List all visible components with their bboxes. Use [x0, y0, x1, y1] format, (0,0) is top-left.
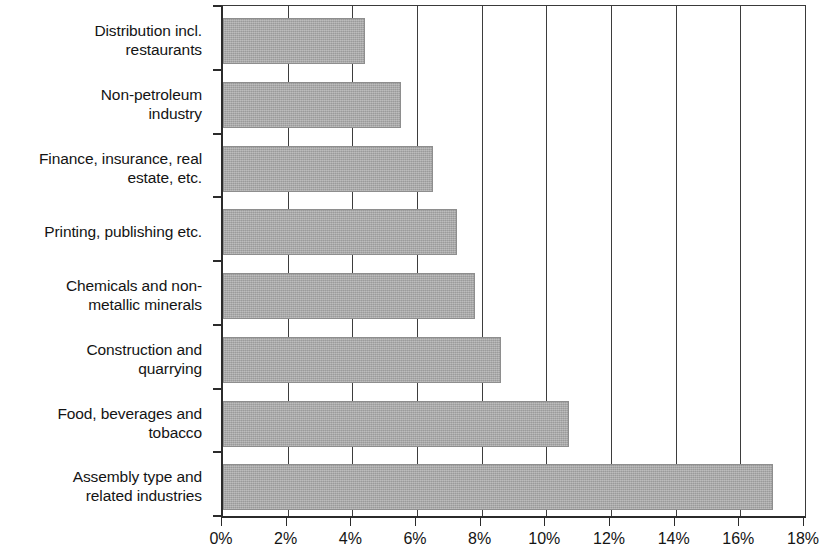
category-label: Non-petroleum industry: [0, 85, 202, 123]
bar: [223, 273, 475, 319]
bar: [223, 464, 773, 510]
value-tick: [544, 517, 545, 526]
category-label: Printing, publishing etc.: [0, 222, 202, 241]
value-tick: [674, 517, 675, 526]
value-tick: [286, 517, 287, 526]
bar: [223, 337, 501, 383]
value-tick-label: 14%: [658, 529, 690, 549]
plot-area: [221, 5, 806, 518]
bar: [223, 18, 365, 64]
value-tick: [415, 517, 416, 526]
category-label: Distribution incl. restaurants: [0, 21, 202, 59]
value-tick: [803, 517, 804, 526]
value-tick: [221, 517, 222, 526]
bar: [223, 82, 401, 128]
value-tick-label: 18%: [787, 529, 819, 549]
bar: [223, 401, 569, 447]
value-tick-label: 10%: [528, 529, 560, 549]
category-label: Construction and quarrying: [0, 340, 202, 378]
value-tick-label: 4%: [339, 529, 362, 549]
value-tick-label: 8%: [468, 529, 491, 549]
category-axis-labels: Distribution incl. restaurantsNon-petrol…: [0, 5, 212, 515]
category-label: Assembly type and related industries: [0, 467, 202, 505]
value-tick-label: 12%: [593, 529, 625, 549]
value-tick: [350, 517, 351, 526]
value-tick-label: 2%: [274, 529, 297, 549]
value-tick-label: 6%: [403, 529, 426, 549]
category-label: Finance, insurance, real estate, etc.: [0, 149, 202, 187]
bar-series: [223, 6, 805, 516]
bar: [223, 209, 457, 255]
category-label: Chemicals and non- metallic minerals: [0, 276, 202, 314]
bar: [223, 146, 433, 192]
value-tick: [738, 517, 739, 526]
category-label: Food, beverages and tobacco: [0, 404, 202, 442]
value-axis-ticks: [221, 517, 805, 527]
value-tick-label: 16%: [722, 529, 754, 549]
value-tick-label: 0%: [209, 529, 232, 549]
value-axis-labels: 0%2%4%6%8%10%12%14%16%18%: [221, 529, 805, 555]
value-tick: [609, 517, 610, 526]
value-tick: [480, 517, 481, 526]
